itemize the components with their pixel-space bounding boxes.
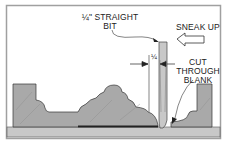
sneak-up-label: SNEAK UP [170, 23, 226, 32]
base-board [7, 127, 220, 137]
diagram-canvas: ¼" STRAIGHT BIT SNEAK UP ¼ CUT THROUGH B… [0, 0, 226, 143]
quarter-dimension-label: ¼ [148, 52, 160, 61]
cut-line [78, 126, 158, 128]
cut-through-label: CUT THROUGH BLANK [176, 58, 220, 85]
bit-label: ¼" STRAIGHT BIT [80, 13, 140, 31]
straight-bit [159, 42, 167, 128]
bit-label-line2: BIT [80, 22, 140, 31]
cut-label-line3: BLANK [176, 76, 220, 85]
